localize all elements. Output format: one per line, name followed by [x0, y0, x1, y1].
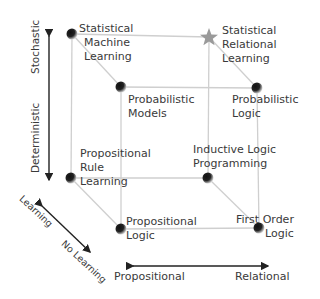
- node-label-line: Rule: [80, 161, 151, 175]
- axis-label-deterministic: Deterministic: [29, 103, 41, 173]
- node-label-line: Learning: [222, 52, 277, 66]
- node-inductive-logic-programming: Inductive Logic Programming: [193, 143, 276, 171]
- node-label-line: Logic: [232, 107, 298, 121]
- axis-label-stochastic: Stochastic: [29, 20, 41, 74]
- node-label-line: Learning: [80, 175, 151, 189]
- sphere-icon: [66, 173, 77, 184]
- sphere-icon: [67, 29, 78, 40]
- node-label-line: Propositional: [80, 147, 151, 161]
- node-label-line: Models: [128, 107, 194, 121]
- sphere-icon: [116, 224, 127, 235]
- node-label-line: Inductive Logic: [193, 143, 276, 157]
- node-label-line: Logic: [236, 227, 294, 241]
- node-label-line: Propositional: [126, 215, 197, 229]
- node-statistical-machine-learning: Statistical Machine Learning: [79, 22, 133, 64]
- axis-label-propositional: Propositional: [114, 270, 185, 283]
- node-label-line: First Order: [236, 213, 294, 227]
- sphere-icon: [116, 82, 127, 93]
- node-propositional-rule-learning: Propositional Rule Learning: [80, 147, 151, 189]
- axis-label-relational: Relational: [235, 270, 290, 283]
- sphere-icon: [252, 83, 263, 94]
- node-propositional-logic: Propositional Logic: [126, 215, 197, 243]
- node-label-line: Learning: [79, 50, 133, 64]
- node-label-line: Programming: [193, 157, 276, 171]
- node-label-line: Statistical: [79, 22, 133, 36]
- node-label-line: Probabilistic: [232, 93, 298, 107]
- node-probabilistic-logic: Probabilistic Logic: [232, 93, 298, 121]
- node-probabilistic-models: Probabilistic Models: [128, 93, 194, 121]
- node-first-order-logic: First Order Logic: [236, 213, 294, 241]
- node-label-line: Machine: [79, 36, 133, 50]
- node-label-line: Relational: [222, 38, 277, 52]
- sphere-icon: [203, 173, 214, 184]
- node-statistical-relational-learning: Statistical Relational Learning: [222, 24, 277, 66]
- node-label-line: Statistical: [222, 24, 277, 38]
- node-label-line: Logic: [126, 229, 197, 243]
- node-label-line: Probabilistic: [128, 93, 194, 107]
